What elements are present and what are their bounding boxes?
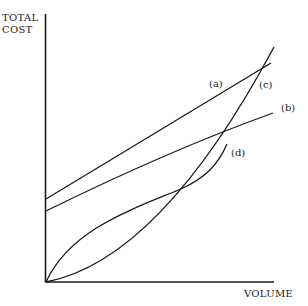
curve-b	[46, 113, 273, 211]
curve-a	[46, 63, 271, 199]
curve-a-label: (a)	[209, 78, 223, 89]
curve-d-label: (d)	[231, 147, 245, 158]
curve-b-label: (b)	[281, 102, 295, 113]
curve-c-label: (c)	[259, 79, 272, 90]
y-axis-label: TOTAL COST	[2, 12, 38, 36]
cost-curves-diagram	[0, 0, 308, 306]
y-axis-label-line1: TOTAL	[2, 12, 38, 24]
y-axis-label-line2: COST	[2, 24, 38, 36]
x-axis-label: VOLUME	[244, 288, 293, 300]
